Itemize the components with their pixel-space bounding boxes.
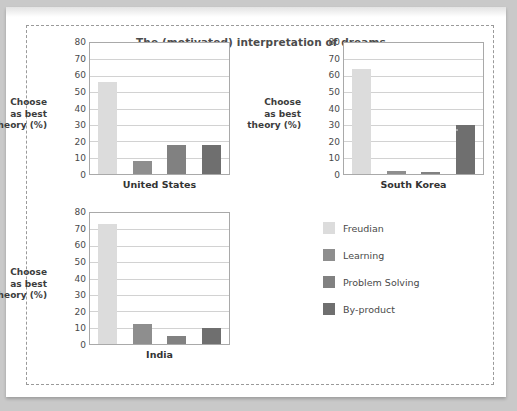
legend-item-label: By-product (343, 303, 395, 316)
y-axis-label-line: Choose (0, 97, 47, 109)
y-tick-label: 60 (323, 71, 340, 80)
y-tick-label: 80 (69, 38, 86, 47)
plot-area (343, 42, 484, 175)
legend-swatch-icon (323, 303, 335, 315)
y-axis-label-line: Choose (241, 97, 301, 109)
bar-by-product (456, 125, 475, 174)
y-tick-label: 40 (323, 104, 340, 113)
y-axis-label: Chooseas besttheory (%) (241, 97, 301, 132)
y-tick-label: 0 (69, 171, 86, 180)
legend-item-by-product: By-product (323, 303, 483, 317)
gridline (90, 76, 229, 77)
panel-x-axis-label: United States (89, 179, 230, 190)
y-tick-label: 60 (69, 71, 86, 80)
y-axis-label-line: as best (241, 109, 301, 121)
y-tick-label: 10 (323, 154, 340, 163)
y-tick-label: 10 (69, 324, 86, 333)
bar-problem-solving (421, 172, 440, 174)
y-axis-label: Chooseas besttheory (%) (0, 97, 47, 132)
bar-freudian (98, 224, 117, 344)
gridline (344, 59, 483, 60)
bar-learning (133, 324, 152, 344)
chart-panel-united-states: Chooseas besttheory (%)80706050403020100… (69, 42, 230, 195)
scan-artifact-speck (456, 129, 458, 131)
y-axis-label-line: Choose (0, 267, 47, 279)
y-tick-label: 50 (69, 257, 86, 266)
y-axis-ticks: 80706050403020100 (69, 212, 86, 345)
y-axis-label-line: as best (0, 279, 47, 291)
y-tick-label: 20 (323, 137, 340, 146)
chart-panel-india: Chooseas besttheory (%)80706050403020100… (69, 212, 230, 365)
legend-swatch-icon (323, 249, 335, 261)
legend-item-label: Problem Solving (343, 276, 420, 289)
y-tick-label: 70 (69, 54, 86, 63)
y-axis-ticks: 80706050403020100 (69, 42, 86, 175)
y-axis-label-line: as best (0, 109, 47, 121)
gridline (90, 59, 229, 60)
y-tick-label: 50 (323, 87, 340, 96)
y-tick-label: 20 (69, 307, 86, 316)
panel-x-axis-label: South Korea (343, 179, 484, 190)
y-tick-label: 70 (323, 54, 340, 63)
y-tick-label: 30 (69, 291, 86, 300)
y-axis-label-line: theory (%) (0, 120, 47, 132)
bar-by-product (202, 328, 221, 344)
legend-item-freudian: Freudian (323, 222, 483, 236)
legend-item-learning: Learning (323, 249, 483, 263)
y-tick-label: 80 (69, 208, 86, 217)
chart-legend: FreudianLearningProblem SolvingBy-produc… (323, 222, 483, 322)
y-axis-label: Chooseas besttheory (%) (0, 267, 47, 302)
legend-swatch-icon (323, 222, 335, 234)
y-tick-label: 30 (323, 121, 340, 130)
y-axis-ticks: 80706050403020100 (323, 42, 340, 175)
y-tick-label: 50 (69, 87, 86, 96)
legend-item-problem-solving: Problem Solving (323, 276, 483, 290)
page-sheet: The (motivated) interpretation of dreams… (6, 7, 506, 397)
y-tick-label: 10 (69, 154, 86, 163)
plot-area (89, 42, 230, 175)
chart-panel-south-korea: Chooseas besttheory (%)80706050403020100… (323, 42, 484, 195)
legend-item-label: Freudian (343, 222, 384, 235)
bar-freudian (352, 69, 371, 174)
legend-swatch-icon (323, 276, 335, 288)
page-top-shading (6, 7, 506, 17)
plot-area (89, 212, 230, 345)
figure-frame: The (motivated) interpretation of dreams… (26, 25, 494, 385)
y-tick-label: 70 (69, 224, 86, 233)
bar-by-product (202, 145, 221, 174)
legend-item-label: Learning (343, 249, 384, 262)
panel-x-axis-label: India (89, 349, 230, 360)
y-axis-label-line: theory (%) (0, 290, 47, 302)
bar-learning (133, 161, 152, 174)
y-axis-label-line: theory (%) (241, 120, 301, 132)
y-tick-label: 0 (69, 341, 86, 350)
bar-freudian (98, 82, 117, 174)
bar-learning (387, 171, 406, 174)
y-tick-label: 40 (69, 104, 86, 113)
y-tick-label: 60 (69, 241, 86, 250)
bar-problem-solving (167, 145, 186, 174)
y-tick-label: 40 (69, 274, 86, 283)
y-tick-label: 20 (69, 137, 86, 146)
y-tick-label: 30 (69, 121, 86, 130)
bar-problem-solving (167, 336, 186, 344)
y-tick-label: 80 (323, 38, 340, 47)
y-tick-label: 0 (323, 171, 340, 180)
